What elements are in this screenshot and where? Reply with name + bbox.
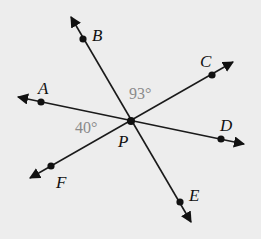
angle-diagram: ABCDEFP93°40°	[0, 0, 261, 239]
point-f	[47, 162, 54, 169]
label-f: F	[55, 173, 67, 192]
point-e	[176, 198, 183, 205]
angle-measure-0: 93°	[129, 85, 151, 102]
label-a: A	[37, 79, 49, 98]
angle-measure-1: 40°	[75, 119, 97, 136]
point-c	[208, 71, 215, 78]
point-b	[79, 35, 86, 42]
label-p: P	[117, 132, 128, 151]
label-e: E	[188, 186, 200, 205]
point-p	[127, 117, 135, 125]
label-b: B	[92, 26, 103, 45]
point-a	[37, 98, 44, 105]
point-d	[217, 135, 224, 142]
label-d: D	[219, 116, 233, 135]
label-c: C	[200, 52, 212, 71]
